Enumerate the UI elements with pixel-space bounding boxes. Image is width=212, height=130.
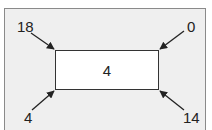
top-right-label: 0 [187, 19, 195, 34]
center-box: 4 [55, 50, 159, 90]
bottom-left-label: 4 [24, 110, 32, 125]
top-left-label: 18 [17, 19, 34, 34]
bottom-right-label: 14 [183, 110, 200, 125]
center-value: 4 [103, 62, 111, 79]
